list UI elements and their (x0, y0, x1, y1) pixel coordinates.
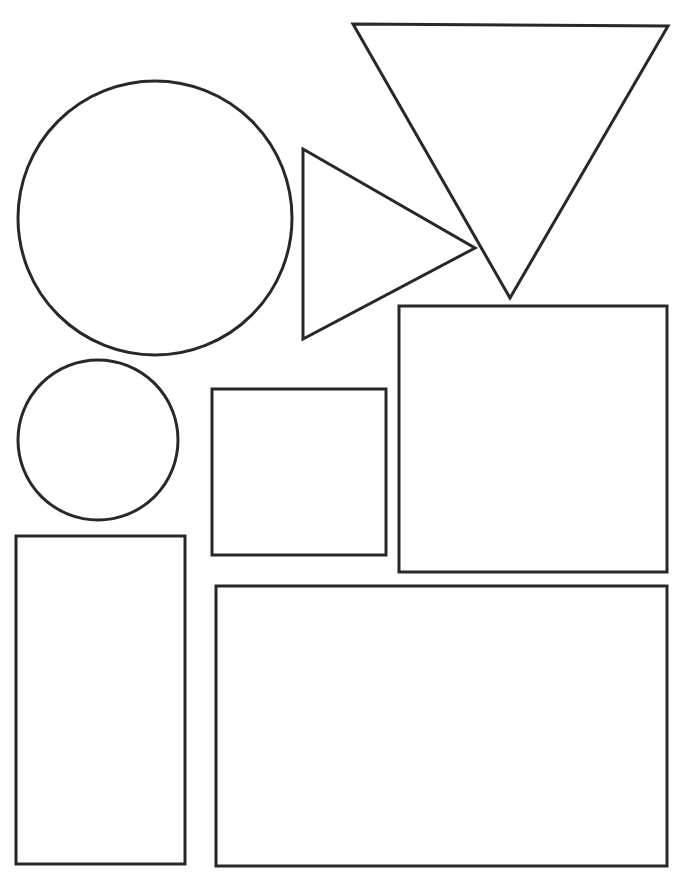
shapes-worksheet (0, 0, 685, 880)
large-square (399, 306, 667, 572)
tall-rectangle (16, 536, 185, 864)
inverted-triangle (353, 24, 668, 298)
square (212, 389, 386, 555)
wide-rectangle (216, 586, 667, 866)
right-pointing-triangle (303, 149, 475, 339)
small-circle (18, 360, 178, 520)
large-circle (18, 81, 292, 355)
